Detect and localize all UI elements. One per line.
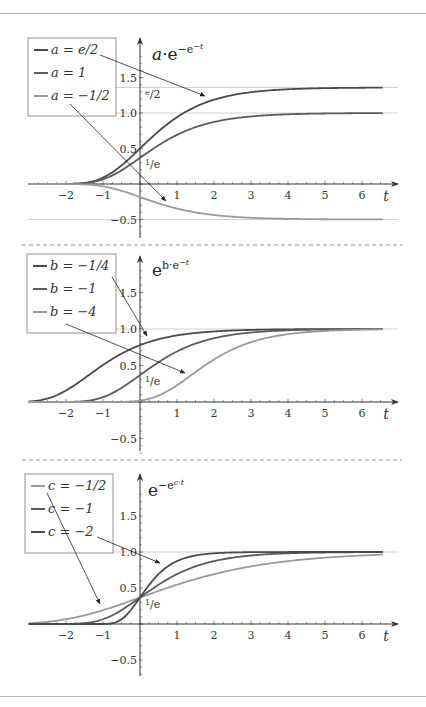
legend-entry: c = −2 (48, 524, 94, 539)
special-value-label: 1/e (145, 158, 160, 171)
x-tick-label: 1 (174, 629, 181, 642)
y-tick-label: −0.5 (110, 433, 137, 446)
x-tick-label: 3 (248, 629, 255, 642)
x-tick-label: −2 (58, 629, 74, 642)
y-tick-label: 1.5 (120, 510, 138, 523)
x-tick-label: −1 (95, 407, 111, 420)
x-tick-label: 3 (248, 189, 255, 202)
plot-title: eb·e−t (152, 258, 190, 280)
x-tick-label: 6 (359, 189, 366, 202)
x-tick-label: 1 (174, 407, 181, 420)
panel-b-plot: −2−1123456t1.51.00.5−0.51/eeb·e−tb = −1/… (27, 254, 398, 453)
x-tick-label: 4 (285, 189, 292, 202)
legend-entry: b = −1 (50, 281, 97, 296)
x-tick-label: 2 (211, 407, 218, 420)
x-tick-label: 1 (174, 189, 181, 202)
curve-c-1 (29, 552, 383, 624)
special-value-label: 1/e (145, 375, 160, 388)
y-tick-label: 0.5 (120, 360, 138, 373)
special-value-label: 1/e (145, 598, 160, 611)
x-tick-label: 5 (322, 407, 329, 420)
legend-entry: b = −4 (50, 304, 97, 319)
y-tick-label: 1.0 (120, 107, 138, 120)
x-axis-label: t (383, 628, 389, 644)
x-tick-label: 6 (359, 629, 366, 642)
legend-entry: a = −1/2 (51, 88, 110, 103)
x-tick-label: −2 (58, 407, 74, 420)
legend-entry: b = −1/4 (50, 258, 109, 273)
y-tick-label: 1.0 (120, 323, 138, 336)
figure-canvas: −2−1123456t1.51.00.5−0.5e/21/ea·e−e−ta =… (0, 0, 426, 707)
y-tick-label: −0.5 (110, 654, 137, 667)
curve-a-1-2 (29, 184, 383, 219)
panel-c-plot: −2−1123456t1.51.00.5−0.51/ee−ec·tc = −1/… (25, 474, 398, 676)
legend: b = −1/4b = −1b = −4 (27, 254, 116, 333)
legend-entry: a = 1 (51, 65, 86, 80)
curve-a-1 (29, 113, 383, 184)
panel-a-plot: −2−1123456t1.51.00.5−0.5e/21/ea·e−e−ta =… (28, 38, 398, 238)
x-tick-label: 4 (285, 629, 292, 642)
legend-entry: a = e/2 (51, 42, 98, 57)
x-tick-label: −2 (58, 189, 74, 202)
plot-title: e−ec·t (148, 478, 185, 500)
x-tick-label: 2 (211, 629, 218, 642)
x-tick-label: 5 (322, 629, 329, 642)
y-tick-label: 1.5 (120, 287, 138, 300)
special-value-label: e/2 (145, 88, 160, 101)
curve-c-1-2 (29, 555, 383, 624)
x-tick-label: 4 (285, 407, 292, 420)
x-tick-label: 6 (359, 407, 366, 420)
y-tick-label: 1.5 (120, 72, 138, 85)
x-tick-label: −1 (95, 189, 111, 202)
x-axis-label: t (383, 406, 389, 422)
y-tick-label: 0.5 (120, 582, 138, 595)
legend-entry: c = −1/2 (48, 478, 106, 493)
plot-title: a·e−e−t (152, 42, 204, 64)
x-tick-label: 3 (248, 407, 255, 420)
x-tick-label: 2 (211, 189, 218, 202)
legend: a = e/2a = 1a = −1/2 (28, 38, 116, 116)
legend: c = −1/2c = −1c = −2 (25, 474, 113, 553)
x-tick-label: 5 (322, 189, 329, 202)
x-tick-label: −1 (95, 629, 111, 642)
x-axis-label: t (383, 188, 389, 204)
annotation-arrow (70, 104, 166, 201)
y-tick-label: −0.5 (110, 214, 137, 227)
